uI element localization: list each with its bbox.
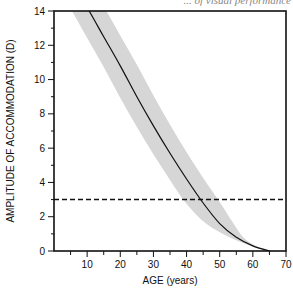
- x-tick-label: 70: [280, 259, 292, 270]
- y-tick-label: 2: [39, 211, 45, 222]
- y-tick-label: 12: [34, 40, 46, 51]
- y-tick-label: 6: [39, 143, 45, 154]
- x-tick-label: 50: [214, 259, 226, 270]
- x-tick-label: 30: [148, 259, 160, 270]
- x-tick-label: 60: [247, 259, 259, 270]
- x-tick-label: 10: [82, 259, 94, 270]
- y-axis-title: AMPLITUDE OF ACCOMMODATION (D): [5, 39, 16, 222]
- range-band: [53, 0, 272, 251]
- y-tick-label: 14: [34, 6, 46, 17]
- y-tick-label: 8: [39, 108, 45, 119]
- x-axis-title: AGE (years): [142, 275, 197, 286]
- y-tick-label: 4: [39, 177, 45, 188]
- x-tick-label: 40: [181, 259, 193, 270]
- y-tick-label: 0: [39, 246, 45, 257]
- accommodation-chart: 0246810121410203040506070AGE (years)AMPL…: [0, 0, 293, 290]
- x-tick-label: 20: [115, 259, 127, 270]
- y-tick-label: 10: [34, 74, 46, 85]
